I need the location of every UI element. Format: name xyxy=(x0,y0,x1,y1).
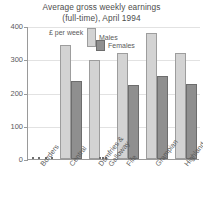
y-axis-tick-label: 0 xyxy=(0,156,23,164)
bar-males xyxy=(89,60,100,159)
legend-swatch-females xyxy=(96,40,105,51)
x-label-slot: Borders xyxy=(27,161,56,209)
legend-entry-females: Females xyxy=(96,40,135,51)
chart-title: Average gross weekly earnings (full-time… xyxy=(0,2,203,23)
x-label-slot: Dumfries &Galloway xyxy=(84,161,113,209)
x-axis-labels: BordersCentralDumfries &GallowayFifeGram… xyxy=(27,161,199,209)
x-label-slot: Highland xyxy=(170,161,199,209)
chart-title-line-2: (full-time), April 1994 xyxy=(0,13,203,24)
legend-unit-label: £ per week xyxy=(49,29,83,37)
legend-label-females: Females xyxy=(108,42,135,50)
bar-males xyxy=(60,45,71,159)
x-label-slot: Grampian xyxy=(142,161,171,209)
y-axis-tick-label: 200 xyxy=(0,90,23,98)
y-axis-tick-label: 300 xyxy=(0,56,23,64)
y-axis-tick-label: 400 xyxy=(0,23,23,31)
x-label-slot: Central xyxy=(56,161,85,209)
axis-tick-dot xyxy=(32,157,34,159)
x-label-slot: Fife xyxy=(113,161,142,209)
y-axis-tick-label: 100 xyxy=(0,123,23,131)
chart-title-line-1: Average gross weekly earnings xyxy=(0,2,203,13)
bar-females xyxy=(128,85,139,159)
legend-swatch-males xyxy=(87,28,96,47)
bar-chart: Average gross weekly earnings (full-time… xyxy=(0,0,203,210)
legend: £ per week Males Females xyxy=(49,29,169,53)
